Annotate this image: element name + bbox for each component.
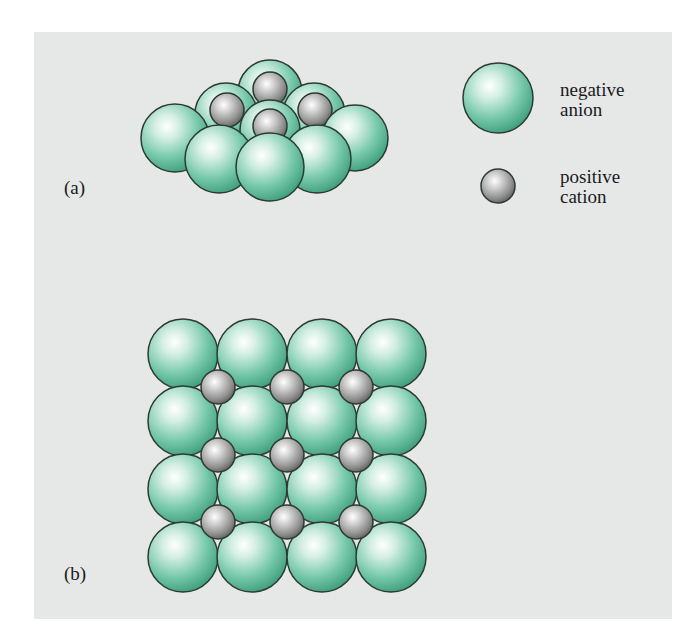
legend-anion-line1: negative xyxy=(560,80,624,100)
cation-sphere xyxy=(201,505,235,539)
cation-sphere xyxy=(339,505,373,539)
panel-b-label: (b) xyxy=(64,564,86,584)
legend-anion-sphere-group xyxy=(463,63,533,133)
cation-sphere xyxy=(270,505,304,539)
cation-sphere xyxy=(201,438,235,472)
legend-anion-sphere xyxy=(463,63,533,133)
cation-sphere xyxy=(339,370,373,404)
anion-sphere xyxy=(236,133,304,201)
legend-cation-sphere-group xyxy=(481,169,515,203)
cation-sphere xyxy=(339,438,373,472)
cation-sphere xyxy=(210,93,244,127)
cation-sphere xyxy=(270,370,304,404)
cation-sphere xyxy=(201,370,235,404)
legend-anion-line2: anion xyxy=(560,100,602,120)
legend-cation-line1: positive xyxy=(560,167,620,187)
cation-sphere xyxy=(270,438,304,472)
panel-b-grid xyxy=(148,319,426,592)
panel-a-cluster xyxy=(141,60,388,201)
panel-a-label: (a) xyxy=(64,178,85,198)
legend-cation-line2: cation xyxy=(560,187,606,207)
legend-cation-sphere xyxy=(481,169,515,203)
